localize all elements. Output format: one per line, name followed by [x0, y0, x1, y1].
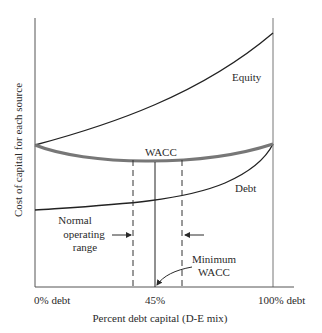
- equity-label: Equity: [232, 71, 262, 83]
- x-axis-title: Percent debt capital (D-E mix): [92, 312, 227, 325]
- minimum-wacc-label-1: Minimum: [192, 253, 236, 265]
- equity-curve: [35, 33, 273, 145]
- normal-range-label-2: operating: [63, 228, 105, 240]
- minimum-wacc-label-2: WACC: [198, 266, 230, 278]
- minimum-wacc-arrow: [157, 267, 192, 285]
- normal-range-label-3: range: [73, 241, 98, 253]
- debt-label: Debt: [235, 182, 256, 194]
- x-tick-0: 0% debt: [34, 294, 70, 306]
- x-tick-100: 100% debt: [258, 294, 305, 306]
- normal-range-label-1: Normal: [58, 214, 92, 226]
- y-axis-title: Cost of capital for each source: [12, 83, 24, 217]
- wacc-label: WACC: [145, 146, 177, 158]
- wacc-chart: Equity WACC Debt Normal operating range …: [0, 0, 322, 333]
- x-tick-45: 45%: [145, 294, 165, 306]
